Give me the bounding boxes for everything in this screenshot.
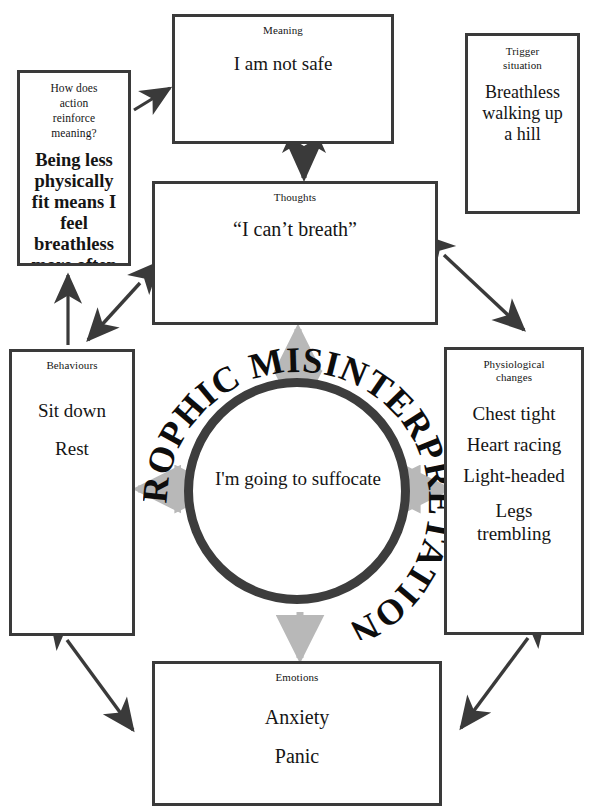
node-how-does-action-reinforce-meaning[interactable]: How does action reinforce meaning? Being… [17,70,131,266]
node-physio-body: Chest tight Heart racing Light-headed Le… [447,398,581,545]
node-physio-title-line-2: changes [447,371,581,384]
node-behaviours-line-1: Sit down [12,392,132,430]
node-trigger-body: Breathless walking up a hill [468,82,577,145]
node-reinforce-line-4: feel [20,213,128,234]
node-trigger-line-2: walking up [468,103,577,124]
node-behaviours-line-2: Rest [12,430,132,468]
arrow-reinforce-to-meaning [134,88,170,110]
node-trigger-line-1: Breathless [468,82,577,103]
node-reinforce-line-6: more often [20,255,128,266]
node-behaviours[interactable]: Behaviours Sit down Rest [9,349,135,636]
node-behaviours-title: Behaviours [12,359,132,372]
node-reinforce-title-line-2: action [20,96,128,111]
node-trigger-situation[interactable]: Trigger situation Breathless walking up … [465,33,580,214]
arrow-behaviours-emotions [67,640,133,730]
node-thoughts-line-1: “I can’t breath” [155,216,435,242]
node-emotions-line-2: Panic [155,737,439,776]
node-physio-line-4b: trembling [447,522,581,545]
node-physio-line-2: Heart racing [447,429,581,460]
node-reinforce-line-2: physically [20,171,128,192]
node-reinforce-body: Being less physically fit means I feel b… [20,150,128,266]
node-trigger-title-line-1: Trigger [468,44,577,58]
node-thoughts[interactable]: Thoughts “I can’t breath” [152,181,438,325]
node-meaning[interactable]: Meaning I am not safe [172,14,394,144]
cycle-ring [184,378,410,604]
arrow-thoughts-physiological [444,255,524,330]
diagram-canvas: CATASTROPHIC MISINTERPRETATION I'm going… [0,0,594,812]
catastrophic-misinterpretation-cycle: CATASTROPHIC MISINTERPRETATION I'm going… [143,340,453,640]
node-thoughts-body: “I can’t breath” [155,216,435,242]
node-physio-title-line-1: Physiological [447,358,581,371]
node-trigger-line-3: a hill [468,124,577,145]
node-meaning-line-1: I am not safe [175,51,391,77]
node-physio-line-1: Chest tight [447,398,581,429]
node-thoughts-title: Thoughts [155,191,435,204]
node-emotions-line-1: Anxiety [155,698,439,737]
node-physiological-changes[interactable]: Physiological changes Chest tight Heart … [444,347,584,635]
node-emotions-title: Emotions [155,671,439,684]
node-reinforce-title-line-1: How does [20,81,128,96]
node-emotions-body: Anxiety Panic [155,698,439,776]
node-trigger-title-line-2: situation [468,58,577,72]
arrow-physiological-emotions [461,638,528,728]
node-meaning-title: Meaning [175,24,391,37]
node-behaviours-body: Sit down Rest [12,392,132,468]
node-reinforce-line-1: Being less [20,150,128,171]
node-reinforce-line-3: fit means I [20,192,128,213]
node-reinforce-line-5: breathless [20,234,128,255]
node-emotions[interactable]: Emotions Anxiety Panic [152,661,442,806]
node-reinforce-title-line-3: reinforce [20,111,128,126]
node-reinforce-title-line-4: meaning? [20,126,128,141]
node-physio-line-4a: Legs [447,499,581,522]
arrow-thoughts-behaviours [88,283,140,340]
node-meaning-body: I am not safe [175,51,391,77]
node-physio-line-3: Light-headed [447,460,581,491]
cycle-core-text: I'm going to suffocate [143,468,453,490]
